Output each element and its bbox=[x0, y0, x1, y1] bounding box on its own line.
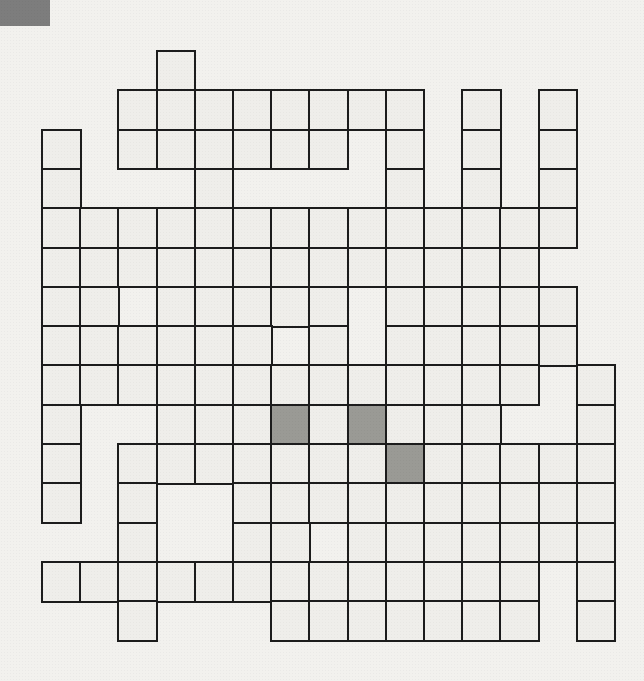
grid-cell[interactable] bbox=[423, 522, 464, 564]
grid-cell[interactable] bbox=[156, 561, 197, 603]
grid-cell[interactable] bbox=[232, 522, 273, 564]
grid-cell[interactable] bbox=[461, 286, 502, 328]
grid-cell[interactable] bbox=[79, 561, 120, 603]
grid-cell[interactable] bbox=[270, 247, 311, 289]
grid-cell[interactable] bbox=[117, 129, 158, 171]
grid-cell[interactable] bbox=[423, 443, 464, 485]
grid-cell[interactable] bbox=[347, 482, 388, 524]
grid-cell[interactable] bbox=[232, 325, 273, 367]
grid-cell[interactable] bbox=[41, 286, 82, 328]
grid-cell[interactable] bbox=[385, 522, 426, 564]
grid-cell[interactable] bbox=[538, 522, 579, 564]
grid-cell[interactable] bbox=[41, 168, 82, 210]
grid-cell[interactable] bbox=[308, 561, 349, 603]
grid-cell[interactable] bbox=[194, 561, 235, 603]
grid-cell[interactable] bbox=[461, 247, 502, 289]
grid-cell[interactable] bbox=[576, 404, 617, 446]
grid-cell-shaded[interactable] bbox=[385, 443, 426, 485]
grid-cell[interactable] bbox=[156, 443, 197, 485]
grid-cell[interactable] bbox=[79, 207, 120, 249]
grid-cell[interactable] bbox=[576, 522, 617, 564]
grid-cell[interactable] bbox=[308, 89, 349, 131]
grid-cell[interactable] bbox=[499, 600, 540, 642]
grid-cell[interactable] bbox=[270, 207, 311, 249]
grid-cell[interactable] bbox=[347, 89, 388, 131]
grid-cell-shaded[interactable] bbox=[347, 404, 388, 446]
grid-cell[interactable] bbox=[194, 168, 235, 210]
grid-cell[interactable] bbox=[423, 364, 464, 406]
grid-cell[interactable] bbox=[270, 443, 311, 485]
grid-cell[interactable] bbox=[385, 325, 426, 367]
grid-cell[interactable] bbox=[194, 443, 235, 485]
grid-cell[interactable] bbox=[41, 129, 82, 171]
grid-cell[interactable] bbox=[194, 129, 235, 171]
grid-cell[interactable] bbox=[423, 404, 464, 446]
grid-cell[interactable] bbox=[461, 364, 502, 406]
grid-cell[interactable] bbox=[423, 207, 464, 249]
grid-cell[interactable] bbox=[385, 247, 426, 289]
grid-cell[interactable] bbox=[117, 364, 158, 406]
grid-cell[interactable] bbox=[461, 129, 502, 171]
grid-cell[interactable] bbox=[194, 286, 235, 328]
grid-cell[interactable] bbox=[461, 600, 502, 642]
grid-cell[interactable] bbox=[576, 600, 617, 642]
grid-cell[interactable] bbox=[461, 404, 502, 446]
grid-cell[interactable] bbox=[41, 482, 82, 524]
grid-cell[interactable] bbox=[576, 561, 617, 603]
grid-cell[interactable] bbox=[347, 522, 388, 564]
grid-cell[interactable] bbox=[347, 207, 388, 249]
grid-cell[interactable] bbox=[232, 364, 273, 406]
grid-cell[interactable] bbox=[156, 404, 197, 446]
grid-cell[interactable] bbox=[117, 207, 158, 249]
grid-cell[interactable] bbox=[576, 443, 617, 485]
grid-cell[interactable] bbox=[538, 89, 579, 131]
grid-cell[interactable] bbox=[79, 325, 120, 367]
grid-cell[interactable] bbox=[308, 325, 349, 367]
grid-cell[interactable] bbox=[156, 207, 197, 249]
grid-cell[interactable] bbox=[270, 89, 311, 131]
grid-cell[interactable] bbox=[232, 443, 273, 485]
grid-cell[interactable] bbox=[499, 522, 540, 564]
grid-cell[interactable] bbox=[538, 325, 579, 367]
grid-cell[interactable] bbox=[347, 443, 388, 485]
grid-cell[interactable] bbox=[117, 443, 158, 485]
grid-cell[interactable] bbox=[232, 561, 273, 603]
grid-cell[interactable] bbox=[385, 600, 426, 642]
grid-cell[interactable] bbox=[385, 89, 426, 131]
grid-cell[interactable] bbox=[461, 89, 502, 131]
grid-cell[interactable] bbox=[194, 207, 235, 249]
grid-cell[interactable] bbox=[117, 325, 158, 367]
grid-cell[interactable] bbox=[347, 561, 388, 603]
grid-cell[interactable] bbox=[385, 404, 426, 446]
grid-cell[interactable] bbox=[499, 325, 540, 367]
grid-cell[interactable] bbox=[41, 325, 82, 367]
crossword-grid[interactable] bbox=[0, 0, 644, 681]
grid-cell[interactable] bbox=[194, 404, 235, 446]
grid-cell[interactable] bbox=[79, 247, 120, 289]
grid-cell[interactable] bbox=[385, 364, 426, 406]
grid-cell[interactable] bbox=[41, 443, 82, 485]
grid-cell[interactable] bbox=[423, 600, 464, 642]
grid-cell[interactable] bbox=[194, 364, 235, 406]
grid-cell[interactable] bbox=[308, 129, 349, 171]
grid-cell[interactable] bbox=[538, 207, 579, 249]
grid-cell[interactable] bbox=[270, 482, 311, 524]
grid-cell[interactable] bbox=[499, 443, 540, 485]
grid-cell[interactable] bbox=[232, 404, 273, 446]
grid-cell[interactable] bbox=[117, 247, 158, 289]
grid-cell[interactable] bbox=[538, 129, 579, 171]
grid-cell[interactable] bbox=[270, 522, 311, 564]
grid-cell[interactable] bbox=[156, 286, 197, 328]
grid-cell[interactable] bbox=[117, 482, 158, 524]
grid-cell[interactable] bbox=[156, 325, 197, 367]
grid-cell[interactable] bbox=[232, 207, 273, 249]
grid-cell[interactable] bbox=[270, 600, 311, 642]
grid-cell[interactable] bbox=[461, 482, 502, 524]
grid-cell[interactable] bbox=[385, 129, 426, 171]
grid-cell[interactable] bbox=[538, 286, 579, 328]
grid-cell[interactable] bbox=[461, 207, 502, 249]
grid-cell[interactable] bbox=[461, 168, 502, 210]
grid-cell[interactable] bbox=[156, 247, 197, 289]
grid-cell[interactable] bbox=[538, 168, 579, 210]
grid-cell[interactable] bbox=[79, 286, 120, 328]
